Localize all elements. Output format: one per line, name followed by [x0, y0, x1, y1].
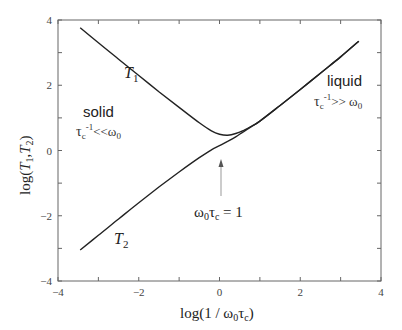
series-t1-curve: [80, 28, 359, 135]
y-tick-label: 4: [47, 14, 53, 26]
x-tick-label: −2: [133, 286, 145, 298]
y-axis-label: log(T1,T2): [17, 135, 35, 195]
plot-frame: [58, 20, 381, 281]
tick-labels: −4−2024−4−2024: [40, 14, 384, 298]
series-label-t2: T2: [114, 230, 128, 250]
chart: −4−2024−4−2024 T1 T2 solid τc-1<<ω0 liqu…: [0, 0, 402, 330]
series-label-t1: T1: [124, 64, 138, 84]
y-tick-label: 0: [47, 145, 53, 157]
axis-ticks: [58, 20, 381, 281]
region-condition-solid: τc-1<<ω0: [76, 122, 121, 141]
x-axis-label: log(1 / ω0τc): [180, 305, 254, 323]
crossover-annotation: ω0τc = 1: [194, 204, 243, 222]
x-tick-label: 4: [378, 286, 384, 298]
region-label-liquid: liquid: [327, 72, 362, 89]
x-tick-label: 0: [217, 286, 223, 298]
region-condition-liquid: τc-1>> ω0: [314, 92, 363, 111]
x-tick-label: 2: [298, 286, 304, 298]
y-tick-label: −4: [40, 275, 52, 287]
y-tick-label: −2: [40, 210, 52, 222]
x-tick-label: −4: [52, 286, 64, 298]
y-tick-label: 2: [47, 79, 53, 91]
crossover-arrow-head: [219, 159, 224, 167]
region-label-solid: solid: [83, 103, 114, 120]
